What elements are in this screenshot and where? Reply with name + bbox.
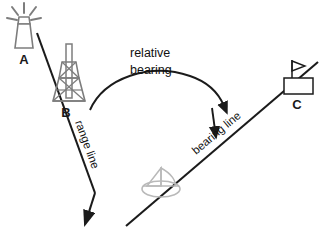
relative-bearing-label-line2: bearing — [130, 63, 172, 77]
navigation-bearing-diagram: A B C — [0, 0, 326, 234]
boat-sail-icon — [147, 168, 161, 186]
label-point-a: A — [19, 52, 29, 67]
flagged-building-symbol: C — [284, 60, 313, 112]
label-point-c: C — [292, 97, 302, 112]
lighthouse-lamp-icon — [18, 17, 30, 24]
radio-tower-symbol: B — [53, 44, 85, 120]
lighthouse-symbol: A — [7, 3, 41, 67]
building-box-icon — [284, 78, 313, 94]
diagram-canvas: A B C — [0, 0, 326, 234]
relative-bearing-label-line1: relative — [130, 46, 170, 60]
flag-icon — [292, 61, 305, 71]
lighthouse-body-icon — [15, 24, 33, 48]
range-line-arrow — [88, 193, 95, 215]
label-point-b: B — [61, 105, 70, 120]
relative-bearing-label-group: relative bearing — [130, 46, 172, 77]
sailboat-symbol — [142, 167, 180, 197]
